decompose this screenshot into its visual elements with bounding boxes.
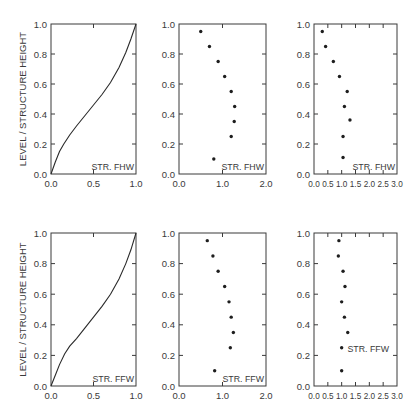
x-tick-label: 2.0 [259, 178, 272, 189]
x-tick-label: 1.5 [350, 392, 362, 401]
figure: 0.00.20.40.60.81.00.00.51.0STR. FHWLEVEL… [0, 0, 419, 419]
y-tick-label: 0.6 [34, 289, 47, 300]
x-tick-label: 0.0 [44, 390, 57, 401]
y-tick-label: 0.4 [162, 109, 175, 120]
x-tick-label: 2.5 [377, 392, 389, 401]
data-point [343, 315, 346, 318]
structure-annotation: STR. FHW [221, 162, 264, 172]
y-tick-label: 0.8 [297, 49, 310, 60]
x-tick-label: 1.0 [216, 390, 229, 401]
data-point [321, 30, 324, 33]
profile-curve [51, 24, 136, 174]
data-point [229, 346, 232, 349]
x-tick-label: 0.0 [308, 180, 320, 189]
y-tick-label: 0.6 [297, 79, 310, 90]
x-tick-label: 0.0 [172, 390, 185, 401]
data-point [223, 75, 226, 78]
structure-annotation: STR. FFW [92, 374, 134, 384]
data-point [341, 135, 344, 138]
y-tick-label: 0.4 [297, 319, 310, 330]
data-point [348, 118, 351, 121]
data-point [324, 45, 327, 48]
x-tick-label: 0.0 [172, 178, 185, 189]
y-tick-label: 0.2 [34, 350, 47, 361]
y-tick-label: 0.6 [297, 289, 310, 300]
y-tick-label: 0.4 [34, 319, 47, 330]
y-tick-label: 0.2 [162, 350, 175, 361]
structure-annotation: STR. FHW [352, 162, 395, 172]
x-tick-label: 1.0 [336, 392, 348, 401]
data-point [230, 135, 233, 138]
y-tick-label: 0.8 [34, 258, 47, 269]
plot-frame [51, 233, 136, 386]
x-tick-label: 0.0 [44, 178, 57, 189]
data-point [233, 120, 236, 123]
x-tick-label: 1.0 [129, 390, 142, 401]
y-tick-label: 0.2 [162, 139, 175, 150]
data-point [337, 254, 340, 257]
x-tick-label: 3.0 [391, 392, 403, 401]
y-tick-label: 1.0 [297, 19, 310, 30]
y-tick-label: 1.0 [162, 228, 175, 239]
data-point [332, 60, 335, 63]
y-tick-label: 0.0 [297, 381, 310, 392]
chart-canvas: 0.00.20.40.60.81.00.00.51.0STR. FHWLEVEL… [0, 0, 419, 419]
data-point [216, 60, 219, 63]
data-point [230, 315, 233, 318]
data-point [232, 331, 235, 334]
y-tick-label: 0.8 [297, 258, 310, 269]
y-tick-label: 0.4 [162, 319, 175, 330]
y-tick-label: 0.8 [34, 49, 47, 60]
x-tick-label: 0.0 [308, 392, 320, 401]
data-point [341, 156, 344, 159]
structure-annotation: STR. FHW [91, 162, 134, 172]
y-tick-label: 0.6 [162, 289, 175, 300]
y-axis-label: LEVEL / STRUCTURE HEIGHT [17, 242, 28, 376]
y-tick-label: 1.0 [34, 19, 47, 30]
x-tick-label: 2.0 [364, 392, 376, 401]
x-tick-label: 0.5 [87, 178, 100, 189]
x-tick-label: 2.0 [364, 180, 376, 189]
panel-ffw-scatter-b: 0.00.20.40.60.81.00.00.51.01.52.02.53.0S… [297, 228, 403, 402]
data-point [340, 369, 343, 372]
x-tick-label: 0.5 [322, 392, 334, 401]
y-axis-label: LEVEL / STRUCTURE HEIGHT [17, 32, 28, 166]
x-tick-label: 1.5 [350, 180, 362, 189]
plot-frame [51, 24, 136, 174]
data-point [233, 105, 236, 108]
panel-fhw-scatter-a: 0.00.20.40.60.81.00.01.02.0STR. FHW [162, 19, 273, 190]
data-point [213, 369, 216, 372]
data-point [343, 105, 346, 108]
y-tick-label: 0.8 [162, 49, 175, 60]
y-tick-label: 0.4 [34, 109, 47, 120]
x-tick-label: 0.5 [322, 180, 334, 189]
data-point [216, 270, 219, 273]
profile-curve [51, 233, 136, 386]
y-tick-label: 0.2 [297, 350, 310, 361]
y-tick-label: 1.0 [297, 228, 310, 239]
data-point [211, 254, 214, 257]
panel-ffw-profile: 0.00.20.40.60.81.00.00.51.0STR. FFWLEVEL… [17, 228, 143, 402]
data-point [340, 346, 343, 349]
y-tick-label: 1.0 [162, 19, 175, 30]
x-tick-label: 3.0 [391, 180, 403, 189]
data-point [230, 90, 233, 93]
data-point [199, 30, 202, 33]
y-tick-label: 0.4 [297, 109, 310, 120]
y-tick-label: 0.0 [297, 169, 310, 180]
y-tick-label: 0.6 [162, 79, 175, 90]
data-point [206, 239, 209, 242]
x-tick-label: 2.0 [259, 390, 272, 401]
structure-annotation: STR. FFW [222, 374, 264, 384]
structure-annotation: STR. FFW [347, 344, 389, 354]
x-tick-label: 1.0 [336, 180, 348, 189]
y-tick-label: 0.2 [34, 139, 47, 150]
panel-fhw-profile: 0.00.20.40.60.81.00.00.51.0STR. FHWLEVEL… [17, 19, 143, 190]
data-point [346, 331, 349, 334]
data-point [338, 75, 341, 78]
data-point [343, 285, 346, 288]
data-point [340, 300, 343, 303]
panel-fhw-scatter-b: 0.00.20.40.60.81.00.00.51.01.52.02.53.0S… [297, 19, 403, 190]
x-tick-label: 1.0 [129, 178, 142, 189]
data-point [223, 285, 226, 288]
